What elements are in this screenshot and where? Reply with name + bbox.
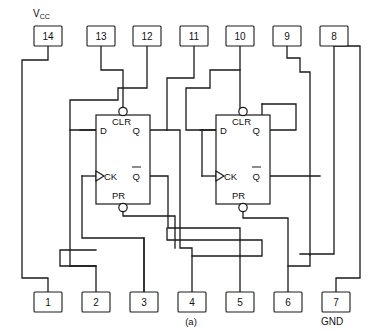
pin-6-label: 6 xyxy=(285,297,291,308)
wire-left-ff-pr xyxy=(123,204,175,248)
top-pin-row: 14 13 12 11 10 9 8 xyxy=(34,26,348,46)
pin-10-label: 10 xyxy=(234,31,246,42)
ff-right-qbar-label: Q xyxy=(253,171,260,182)
pin-13-label: 13 xyxy=(95,31,107,42)
vcc-label: VCC xyxy=(33,8,50,20)
pin-7-label: 7 xyxy=(333,297,339,308)
pin-5-label: 5 xyxy=(237,297,243,308)
pin-8[interactable]: 8 xyxy=(320,26,348,46)
pin-11[interactable]: 11 xyxy=(180,26,208,46)
pin-11-label: 11 xyxy=(189,31,200,42)
ff-left-pr-label: PR xyxy=(112,190,125,201)
ff-right-ck-label: CK xyxy=(224,171,238,182)
pin-1[interactable]: 1 xyxy=(34,292,62,312)
bottom-pin-row: 1 2 3 4 5 6 7 xyxy=(34,292,350,312)
pin-12[interactable]: 12 xyxy=(133,26,161,46)
pin-10[interactable]: 10 xyxy=(226,26,254,46)
wire-left-ff-q-out xyxy=(150,130,192,292)
pin-2[interactable]: 2 xyxy=(82,292,110,312)
wiring-layer xyxy=(22,46,360,292)
ff-left-d-label: D xyxy=(100,125,107,136)
wire-right-rail-to-pin7 xyxy=(334,46,360,292)
wire-pin8-drop xyxy=(300,46,334,254)
ff-right-q-label: Q xyxy=(253,125,260,136)
ff-left-qbar-label: Q xyxy=(133,171,140,182)
wire-bottom-cross-b xyxy=(288,255,310,266)
pin-13[interactable]: 13 xyxy=(87,26,115,46)
pin-7[interactable]: 7 xyxy=(322,292,350,312)
ff-left-ck-label: CK xyxy=(104,171,118,182)
figure-caption: (a) xyxy=(185,316,197,327)
pin-3-label: 3 xyxy=(141,297,147,308)
ff-right-pr-label: PR xyxy=(232,190,245,201)
gnd-label: GND xyxy=(321,316,343,327)
ff-left-q-label: Q xyxy=(133,125,140,136)
pin-4-label: 4 xyxy=(189,297,195,308)
ff-right[interactable]: D CLR Q CK PR Q xyxy=(216,107,270,211)
ff-left[interactable]: D CLR Q CK PR Q xyxy=(96,107,150,211)
pin-6[interactable]: 6 xyxy=(274,292,302,312)
pin-14-label: 14 xyxy=(42,31,54,42)
pin-9-label: 9 xyxy=(284,31,290,42)
pin-2-label: 2 xyxy=(93,297,99,308)
wire-bottom-cross-a xyxy=(167,228,262,256)
pin-3[interactable]: 3 xyxy=(130,292,158,312)
ff-right-pr-bubble-icon xyxy=(239,203,247,211)
wire-pin14-to-pin1 xyxy=(22,46,48,292)
ff-right-clr-label: CLR xyxy=(232,116,251,127)
pin-5[interactable]: 5 xyxy=(226,292,254,312)
ff-right-d-label: D xyxy=(220,125,227,136)
ff-left-pr-bubble-icon xyxy=(119,203,127,211)
wire-left-ff-d-loop xyxy=(70,130,96,292)
ff-right-clr-bubble-icon xyxy=(239,107,247,115)
ff-left-clr-label: CLR xyxy=(112,116,131,127)
ff-left-clr-bubble-icon xyxy=(119,107,127,115)
wire-pin2-route xyxy=(60,250,96,266)
pin-14[interactable]: 14 xyxy=(34,26,62,46)
ic-pinout-diagram: 14 13 12 11 10 9 8 VCC xyxy=(0,0,383,331)
pin-8-label: 8 xyxy=(331,31,337,42)
wire-right-ff-pr xyxy=(243,204,288,292)
wire-pin9-drop xyxy=(287,46,310,255)
pin-12-label: 12 xyxy=(141,31,153,42)
pin-4[interactable]: 4 xyxy=(178,292,206,312)
pin-9[interactable]: 9 xyxy=(273,26,301,46)
pin-1-label: 1 xyxy=(45,297,51,308)
